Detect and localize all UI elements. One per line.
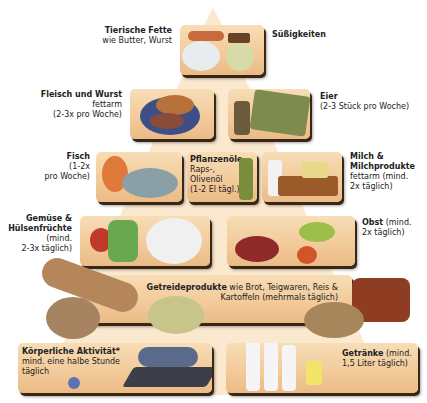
- title-eier: Eier: [320, 92, 409, 102]
- image-milch: [262, 152, 342, 202]
- title-obst: Obst: [362, 218, 383, 227]
- title-tierische-fette: Tierische Fette: [100, 26, 172, 36]
- potatoes-image: [304, 302, 364, 338]
- detail-milch-2: 2x täglich): [350, 182, 415, 192]
- papaya-image: [297, 246, 317, 264]
- food-pyramid-diagram: Tierische Fette wie Butter, Wurst Süßigk…: [0, 0, 427, 403]
- image-eier: [228, 89, 310, 139]
- label-aktivitaet: Körperliche Aktivität* mind. eine halbe …: [22, 347, 120, 377]
- cheese-board-image: [278, 176, 338, 196]
- chocolate-image: [228, 33, 250, 43]
- label-getraenke: Getränke (mind. 1,5 Liter täglich): [342, 349, 412, 369]
- detail-fisch-2: pro Woche): [10, 172, 90, 182]
- detail-aktivitaet-2: täglich: [22, 367, 120, 377]
- detail-eier: (2-3 Stück pro Woche): [320, 102, 409, 112]
- oil-bottle-image: [239, 158, 253, 200]
- cheese-image: [302, 162, 328, 178]
- label-fisch: Fisch (1-2x pro Woche): [10, 152, 90, 182]
- title-gemuese-2: Hülsenfrüchte: [4, 224, 72, 234]
- label-pflanzenoele: Pflanzenöle Raps-, Olivenöl (1-2 El tägl…: [190, 155, 242, 195]
- label-fleisch: Fleisch und Wurst fettarm (2-3x pro Woch…: [10, 90, 122, 120]
- image-gemuese: [80, 216, 210, 266]
- detail-milch-1: fettarm (mind.: [350, 172, 415, 182]
- egg-cup-image: [234, 101, 250, 135]
- water-bottle-image: [264, 343, 278, 391]
- water-bottle-image: [282, 345, 296, 391]
- title-fisch: Fisch: [10, 152, 90, 162]
- title-fleisch: Fleisch und Wurst: [10, 90, 122, 100]
- detail-gemuese-2: 2-3x täglich): [4, 244, 72, 254]
- image-getraenke: Getränke (mind. 1,5 Liter täglich): [226, 343, 418, 393]
- detail-pflanzenoele-1: Raps-,: [190, 165, 242, 175]
- chicken-image: [156, 95, 194, 115]
- roast-image: [150, 113, 184, 129]
- label-eier: Eier (2-3 Stück pro Woche): [320, 92, 409, 112]
- exercise-mat-image: [122, 367, 212, 387]
- detail-pflanzenoele-3: (1-2 El tägl.): [190, 185, 242, 195]
- person-exercising-image: [138, 347, 198, 367]
- detail-obst-1: (mind.: [386, 218, 412, 227]
- detail-getreide-2: Kartoffeln (mehrmals täglich): [126, 293, 338, 303]
- detail-getraenke-1: (mind.: [386, 349, 412, 358]
- fruit-bowl-image: [299, 222, 335, 242]
- vegetable-bowl-image: [146, 218, 202, 264]
- butter-plate-image: [182, 41, 220, 71]
- title-getreide: Getreideprodukte: [147, 283, 227, 292]
- image-fisch: [96, 152, 182, 202]
- detail-gemuese-1: (mind.: [4, 234, 72, 244]
- label-obst: Obst (mind. 2x täglich): [362, 218, 412, 238]
- water-bottle-image: [246, 343, 260, 391]
- sausage-image: [188, 31, 224, 41]
- detail-tierische-fette: wie Butter, Wurst: [100, 36, 172, 46]
- title-aktivitaet: Körperliche Aktivität*: [22, 347, 120, 357]
- title-getraenke: Getränke: [342, 349, 383, 358]
- image-fleisch: [130, 89, 214, 139]
- title-suessigkeiten: Süßigkeiten: [272, 30, 326, 40]
- detail-getreide-1: wie Brot, Teigwaren, Reis &: [229, 283, 338, 292]
- dumbbell-image: [68, 377, 80, 389]
- image-pflanzenoele: Pflanzenöle Raps-, Olivenöl (1-2 El tägl…: [187, 152, 257, 202]
- detail-getraenke-2: 1,5 Liter täglich): [342, 359, 412, 369]
- detail-pflanzenoele-2: Olivenöl: [190, 175, 242, 185]
- label-suessigkeiten: Süßigkeiten: [272, 30, 326, 40]
- image-fette-suessigkeiten: [180, 25, 264, 75]
- label-tierische-fette: Tierische Fette wie Butter, Wurst: [100, 26, 172, 46]
- detail-aktivitaet-1: mind. eine halbe Stunde: [22, 357, 120, 367]
- detail-fleisch-1: fettarm: [10, 100, 122, 110]
- label-milch: Milch & Milchprodukte fettarm (mind. 2x …: [350, 152, 415, 192]
- title-milch-1: Milch &: [350, 152, 415, 162]
- fish-image: [122, 168, 178, 198]
- label-getreide: Getreideprodukte wie Brot, Teigwaren, Re…: [126, 283, 338, 303]
- juice-glass-image: [306, 361, 322, 385]
- image-obst: [227, 216, 355, 266]
- image-aktivitaet: Körperliche Aktivität* mind. eine halbe …: [18, 343, 212, 393]
- bread-loaf-image: [46, 297, 100, 339]
- title-milch-2: Milchprodukte: [350, 162, 415, 172]
- title-gemuese-1: Gemüse &: [4, 214, 72, 224]
- detail-fleisch-2: (2-3x pro Woche): [10, 110, 122, 120]
- title-pflanzenoele: Pflanzenöle: [190, 155, 242, 165]
- detail-obst-2: 2x täglich): [362, 228, 412, 238]
- grapes-image: [235, 236, 279, 262]
- label-gemuese: Gemüse & Hülsenfrüchte (mind. 2-3x tägli…: [4, 214, 72, 254]
- celery-image: [108, 220, 138, 262]
- ice-cream-image: [226, 43, 254, 71]
- egg-carton-image: [249, 89, 310, 136]
- detail-fisch-1: (1-2x: [10, 162, 90, 172]
